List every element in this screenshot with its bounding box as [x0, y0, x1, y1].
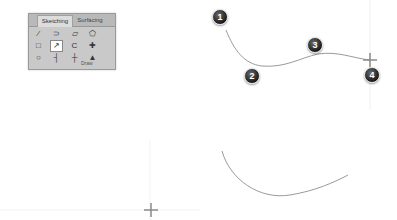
spline-curve[interactable] [226, 30, 370, 66]
arc-curve[interactable] [222, 151, 348, 196]
step-marker-2: 2 [244, 68, 260, 84]
step-marker-1: 1 [212, 9, 228, 25]
step-marker-3: 3 [307, 37, 323, 53]
step-marker-4: 4 [364, 67, 380, 83]
sketch-canvas[interactable] [0, 0, 397, 220]
crosshair-icon [363, 53, 377, 67]
crosshair-icon [144, 203, 158, 217]
